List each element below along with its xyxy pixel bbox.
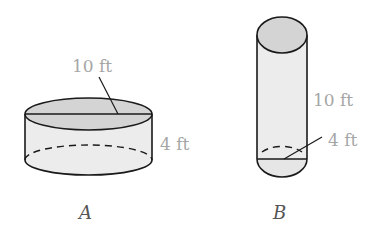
cylinder-comparison-figure: 10 ft 4 ft A 10 ft 4 ft B — [0, 0, 384, 227]
cylinder-b-body — [257, 35, 307, 177]
cylinder-a-height-label: 4 ft — [160, 134, 190, 154]
cylinder-b-top — [257, 17, 307, 53]
cylinder-b-height-label: 10 ft — [313, 90, 353, 110]
cylinder-a: 10 ft 4 ft A — [25, 56, 190, 223]
cylinder-b-diameter-label: 4 ft — [328, 130, 358, 150]
cylinder-a-diameter-label: 10 ft — [72, 56, 112, 76]
cylinder-a-name-label: A — [77, 202, 92, 223]
cylinder-b-bottom-front — [257, 159, 307, 177]
cylinder-b: 10 ft 4 ft B — [257, 17, 358, 223]
cylinder-b-name-label: B — [272, 202, 286, 223]
